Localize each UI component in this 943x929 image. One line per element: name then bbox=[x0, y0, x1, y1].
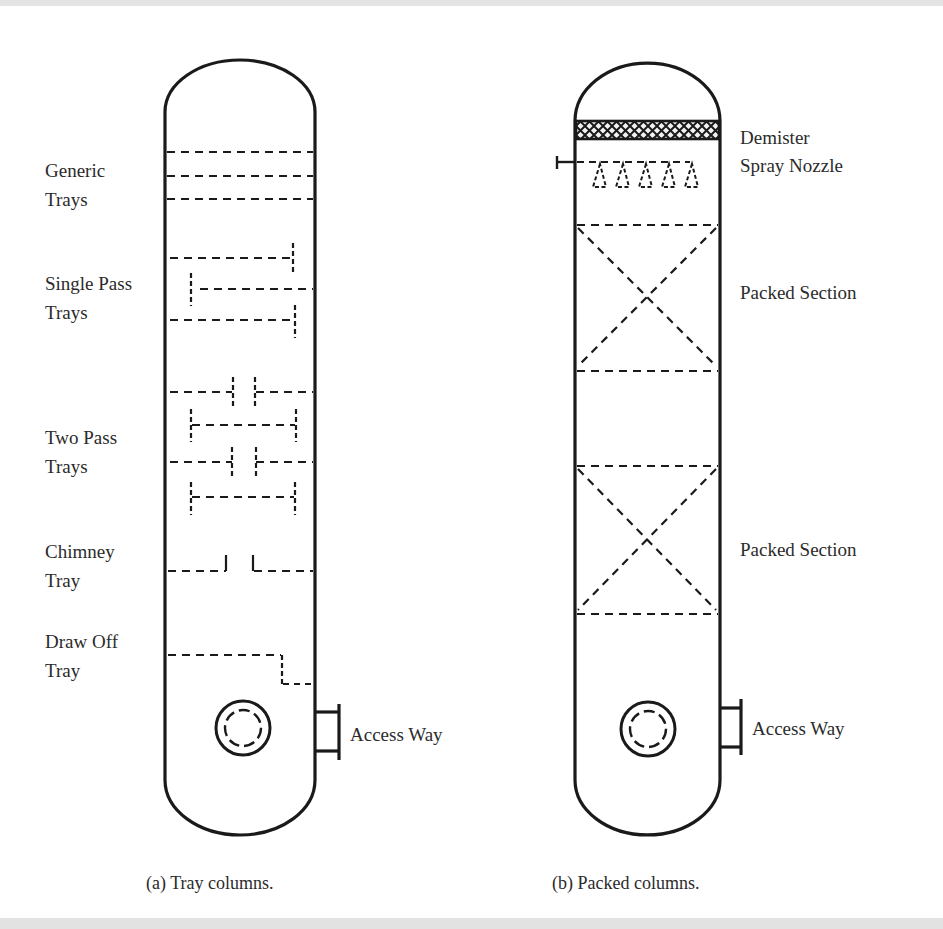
label-draw-off-line1: Draw Off bbox=[45, 628, 118, 655]
manway-icon bbox=[621, 702, 675, 756]
caption-packed-columns: (b) Packed columns. bbox=[552, 872, 699, 894]
access-way-nozzle bbox=[720, 699, 741, 755]
packed-column bbox=[557, 63, 741, 835]
label-two-pass-line1: Two Pass bbox=[45, 424, 117, 451]
access-way-nozzle bbox=[315, 704, 339, 760]
label-single-pass-line2: Trays bbox=[45, 299, 88, 326]
caption-tray-columns: (a) Tray columns. bbox=[146, 872, 274, 894]
draw-off-tray bbox=[168, 655, 313, 684]
spray-nozzle-assembly bbox=[557, 156, 698, 187]
label-chimney-line1: Chimney bbox=[45, 538, 115, 565]
label-access-way-b: Access Way bbox=[752, 715, 845, 742]
label-single-pass-line1: Single Pass bbox=[45, 270, 132, 297]
label-packed-section-lower: Packed Section bbox=[740, 536, 857, 563]
two-pass-trays bbox=[170, 377, 313, 515]
label-generic-trays-line2: Trays bbox=[45, 186, 88, 213]
label-two-pass-line2: Trays bbox=[45, 453, 88, 480]
single-pass-trays bbox=[170, 243, 313, 338]
label-draw-off-line2: Tray bbox=[45, 657, 80, 684]
tray-column bbox=[165, 60, 339, 835]
label-chimney-line2: Tray bbox=[45, 567, 80, 594]
label-generic-trays-line1: Generic bbox=[45, 157, 105, 184]
packed-section-upper bbox=[577, 225, 718, 371]
demister-mesh bbox=[576, 121, 719, 139]
label-packed-section-upper: Packed Section bbox=[740, 279, 857, 306]
chimney-tray bbox=[168, 555, 313, 571]
label-demister: Demister bbox=[740, 124, 810, 151]
label-spray-nozzle: Spray Nozzle bbox=[740, 152, 843, 179]
packed-section-lower bbox=[577, 466, 718, 614]
packed-column-shell bbox=[575, 63, 720, 835]
label-access-way-a: Access Way bbox=[350, 721, 443, 748]
generic-trays bbox=[167, 152, 313, 199]
manway-icon bbox=[216, 701, 270, 755]
